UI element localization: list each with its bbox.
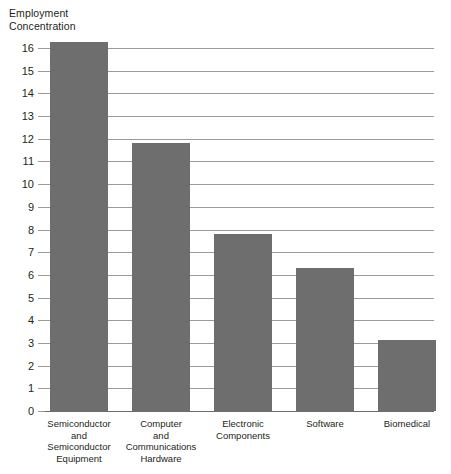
y-axis-tick	[38, 48, 45, 49]
y-axis-tick	[38, 366, 45, 367]
y-axis-tick-label: 11	[23, 156, 34, 167]
y-axis-tick-label: 8	[28, 224, 34, 235]
y-axis-tick-label: 4	[28, 315, 34, 326]
y-axis-tick	[38, 252, 45, 253]
y-axis-tick	[38, 343, 45, 344]
bar	[378, 340, 436, 411]
x-axis-category-label: Computer and Communications Hardware	[120, 418, 202, 464]
x-axis-category-label: Electronic Components	[202, 418, 284, 441]
y-axis-tick	[38, 388, 45, 389]
y-axis-tick	[38, 320, 45, 321]
y-axis-tick-label: 7	[28, 247, 34, 258]
x-axis-category-label: Semiconductor and Semiconductor Equipmen…	[38, 418, 120, 464]
y-axis-tick	[38, 93, 45, 94]
y-axis-tick-label: 3	[28, 337, 34, 348]
y-axis-tick-label: 0	[28, 406, 34, 417]
y-axis-tick	[38, 230, 45, 231]
y-axis-tick	[38, 139, 45, 140]
y-axis-tick	[38, 275, 45, 276]
y-axis-tick-label: 1	[28, 383, 34, 394]
axis-baseline	[45, 411, 434, 412]
x-axis-category-label: Biomedical	[366, 418, 448, 430]
y-axis-tick	[38, 411, 45, 412]
y-axis-tick-label: 14	[22, 88, 34, 99]
y-axis-tick	[38, 184, 45, 185]
y-axis-tick	[38, 207, 45, 208]
y-axis-tick	[38, 71, 45, 72]
y-axis-tick	[38, 161, 45, 162]
bar	[296, 268, 354, 411]
y-axis-tick-label: 15	[22, 65, 34, 76]
y-axis-tick-label: 6	[28, 269, 34, 280]
y-axis-tick-label: 16	[22, 43, 34, 54]
y-axis-tick-label: 10	[22, 179, 34, 190]
bar	[132, 143, 190, 411]
chart-axis-title: Employment Concentration	[9, 7, 76, 32]
employment-concentration-bar-chart: Employment Concentration 012345678910111…	[0, 0, 451, 474]
bar	[50, 42, 108, 411]
bar	[214, 234, 272, 411]
y-axis-tick-label: 9	[28, 201, 34, 212]
x-axis-category-label: Software	[284, 418, 366, 430]
y-axis-tick-label: 12	[22, 133, 34, 144]
y-axis-tick	[38, 116, 45, 117]
plot-area: 012345678910111213141516	[45, 48, 434, 411]
y-axis-tick-label: 2	[28, 360, 34, 371]
y-axis-tick	[38, 298, 45, 299]
y-axis-tick-label: 5	[28, 292, 34, 303]
y-axis-tick-label: 13	[22, 111, 34, 122]
